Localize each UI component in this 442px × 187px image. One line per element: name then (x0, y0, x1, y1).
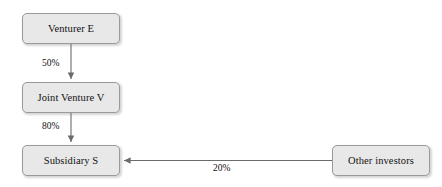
edge-label-jv-to-subsidiary: 80% (42, 121, 59, 131)
node-joint-venture-v: Joint Venture V (22, 82, 120, 113)
node-venturer-e-label: Venturer E (48, 23, 94, 34)
node-subsidiary-s-label: Subsidiary S (44, 155, 99, 166)
node-joint-venture-v-label: Joint Venture V (37, 92, 104, 103)
node-other-investors-label: Other investors (348, 155, 414, 166)
node-venturer-e: Venturer E (22, 13, 120, 44)
ownership-diagram: Venturer E Joint Venture V Subsidiary S … (0, 0, 442, 187)
node-subsidiary-s: Subsidiary S (22, 145, 120, 176)
edge-label-other-to-subsidiary: 20% (213, 163, 230, 173)
node-other-investors: Other investors (332, 145, 430, 176)
edge-label-venturer-to-jv: 50% (42, 58, 59, 68)
